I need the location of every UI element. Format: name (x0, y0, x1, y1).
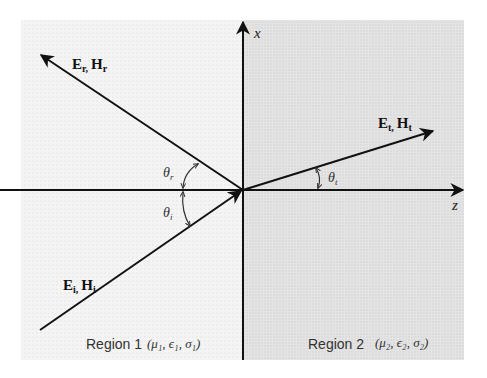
region-2-params: (μ₂, ϵ₂, σ₂) (375, 335, 428, 350)
region-2-label: Region 2 (308, 336, 364, 352)
region-1-label: Region 1 (86, 336, 142, 352)
x-axis-label: x (253, 25, 261, 41)
region-1-params: (μ₁, ϵ₁, σ₁) (147, 336, 200, 351)
oblique-incidence-diagram: x z Er,Hr Ei,Hi Et,Ht θr θi θt Region 1 … (0, 0, 487, 378)
z-axis-label: z (451, 197, 458, 213)
